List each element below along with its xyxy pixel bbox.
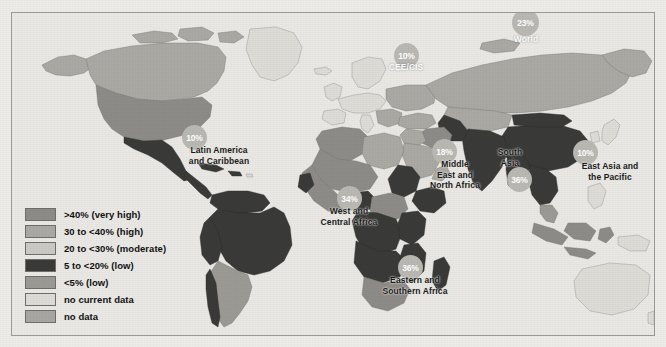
label-world: World [504, 34, 548, 45]
country-mongolia [512, 113, 572, 127]
country-libya-egypt [362, 133, 404, 169]
label-cee-cis: CEE/CIS [380, 62, 432, 73]
legend-row: no current data [25, 291, 197, 308]
label-east-asia-line1: East Asia and [567, 161, 653, 172]
label-east-asia-pacific: East Asia and the Pacific [567, 161, 653, 182]
legend-swatch-low [25, 259, 56, 272]
label-west-central-line1: West and [304, 206, 394, 217]
legend-row: 5 to <20% (low) [25, 257, 197, 274]
label-mena: Middle East and North Africa [416, 159, 494, 191]
label-east-asia-line2: the Pacific [567, 172, 653, 183]
legend-row: 30 to <40% (high) [25, 223, 197, 240]
label-latin-america: Latin America and Caribbean [176, 145, 262, 166]
map-frame: .c-vhigh { fill:#8d8c88; stroke:#74736f;… [11, 12, 655, 336]
country-puerto-rico [246, 174, 253, 177]
label-eastern-southern-africa: Eastern and Southern Africa [367, 275, 463, 296]
legend-label-low: 5 to <20% (low) [64, 260, 134, 271]
badge-south-asia: 36% [507, 167, 532, 192]
legend-swatch-no-data [25, 310, 56, 323]
label-south-asia-line1: South [489, 147, 531, 158]
legend-label-very-high: >40% (very high) [64, 209, 141, 220]
legend-row: no data [25, 308, 197, 325]
country-new-zealand [648, 311, 654, 325]
legend-row: >40% (very high) [25, 206, 197, 223]
label-eastern-southern-line2: Southern Africa [367, 286, 463, 297]
label-south-asia: South Asia [489, 147, 531, 168]
label-west-central-line2: Central Africa [304, 217, 394, 228]
legend-row: <5% (low) [25, 274, 197, 291]
legend-swatch-no-current-data [25, 293, 56, 306]
label-mena-line2: East and [416, 170, 494, 181]
legend-swatch-very-low [25, 276, 56, 289]
infographic-page: .c-vhigh { fill:#8d8c88; stroke:#74736f;… [0, 0, 666, 347]
legend-label-very-low: <5% (low) [64, 277, 109, 288]
label-mena-line3: North Africa [416, 180, 494, 191]
legend-swatch-high [25, 225, 56, 238]
label-latin-america-line2: and Caribbean [176, 156, 262, 167]
legend-label-moderate: 20 to <30% (moderate) [64, 243, 166, 254]
legend-label-no-data: no data [64, 311, 98, 322]
legend-label-no-current-data: no current data [64, 294, 134, 305]
legend-swatch-very-high [25, 208, 56, 221]
label-west-central-africa: West and Central Africa [304, 206, 394, 227]
label-latin-america-line1: Latin America [176, 145, 262, 156]
label-south-asia-line2: Asia [489, 158, 531, 169]
legend-swatch-moderate [25, 242, 56, 255]
legend-label-high: 30 to <40% (high) [64, 226, 143, 237]
label-mena-line1: Middle [416, 159, 494, 170]
legend-row: 20 to <30% (moderate) [25, 240, 197, 257]
label-eastern-southern-line1: Eastern and [367, 275, 463, 286]
legend: >40% (very high) 30 to <40% (high) 20 to… [25, 201, 197, 331]
